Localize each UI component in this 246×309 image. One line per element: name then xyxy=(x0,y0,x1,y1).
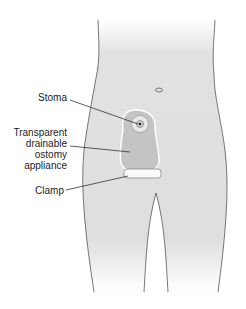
clamp xyxy=(124,169,161,178)
clamp-label: Clamp xyxy=(20,185,64,196)
stoma-label: Stoma xyxy=(20,92,67,103)
appliance-label: Transparent drainable ostomy appliance xyxy=(4,127,67,171)
